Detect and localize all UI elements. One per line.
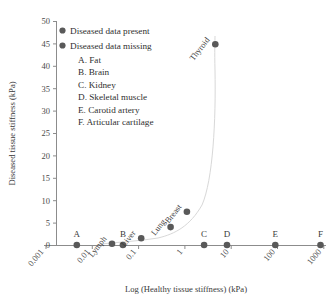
data-point-a[interactable] xyxy=(74,242,81,249)
legend-key-f: F. Articular cartilage xyxy=(78,117,154,127)
legend-label-present: Diseased data present xyxy=(70,26,150,36)
y-tick-label: 40 xyxy=(42,61,51,71)
series-diseased-data-present xyxy=(109,41,219,247)
x-axis-tick-labels: 0.001 0.01 0.1 1 10 100 1000 xyxy=(26,247,324,268)
chart-svg: 0 5 10 15 20 25 30 35 40 45 50 Diseased … xyxy=(0,0,336,301)
y-tick-label: 35 xyxy=(42,84,51,94)
y-tick-label: 25 xyxy=(42,128,51,138)
point-letter-labels: A B C D E F xyxy=(74,229,323,239)
legend-marker-present xyxy=(59,27,65,33)
y-tick-label: 50 xyxy=(42,16,51,26)
x-axis-ticks xyxy=(46,246,324,250)
trend-curve xyxy=(99,36,216,244)
x-tick-label: 1000 xyxy=(305,247,324,266)
label-f: F xyxy=(318,229,323,239)
label-a: A xyxy=(74,229,81,239)
label-e: E xyxy=(273,229,279,239)
annotation-breast: Breast xyxy=(163,202,184,225)
y-tick-label: 10 xyxy=(42,196,51,206)
data-point-f[interactable] xyxy=(317,242,324,249)
annotation-thyroid: Thyroid xyxy=(188,35,212,62)
data-point-c[interactable] xyxy=(201,242,208,249)
legend-marker-missing xyxy=(59,42,65,48)
y-axis-ticks xyxy=(53,22,57,246)
x-tick-label: 0.001 xyxy=(26,247,46,268)
legend-key-a: A. Fat xyxy=(78,55,101,65)
y-axis-tick-labels: 0 5 10 15 20 25 30 35 40 45 50 xyxy=(42,16,51,250)
y-tick-label: 20 xyxy=(42,151,51,161)
y-tick-label: 45 xyxy=(42,39,51,49)
data-point-lymph[interactable] xyxy=(109,240,116,247)
legend-key-b: B. Brain xyxy=(78,67,110,77)
data-point-d[interactable] xyxy=(224,242,231,249)
label-c: C xyxy=(201,229,207,239)
chart-legend: Diseased data present Diseased data miss… xyxy=(59,26,153,127)
x-tick-label: 10 xyxy=(218,247,231,260)
x-axis-title: Log (Healthy tissue stiffness) (kPa) xyxy=(125,284,247,294)
y-tick-label: 15 xyxy=(42,173,51,183)
annotation-lymph: Lymph xyxy=(87,234,109,259)
scatter-chart: 0 5 10 15 20 25 30 35 40 45 50 Diseased … xyxy=(0,0,336,301)
legend-label-missing: Diseased data missing xyxy=(70,41,152,51)
x-tick-label: 1 xyxy=(174,247,184,257)
legend-key-c: C. Kidney xyxy=(78,80,116,90)
data-point-liver[interactable] xyxy=(138,235,145,242)
legend-key-e: E. Carotid artery xyxy=(78,105,140,115)
x-tick-label: 100 xyxy=(261,247,277,263)
data-point-thyroid[interactable] xyxy=(212,41,219,48)
y-tick-label: 30 xyxy=(42,106,51,116)
data-point-e[interactable] xyxy=(272,242,279,249)
label-d: D xyxy=(224,229,231,239)
legend-key-d: D. Skeletal muscle xyxy=(78,92,147,102)
data-point-breast[interactable] xyxy=(184,209,191,216)
y-tick-label: 5 xyxy=(46,218,50,228)
y-axis-title: Diseased tissue stiffness (kPa) xyxy=(7,81,17,185)
